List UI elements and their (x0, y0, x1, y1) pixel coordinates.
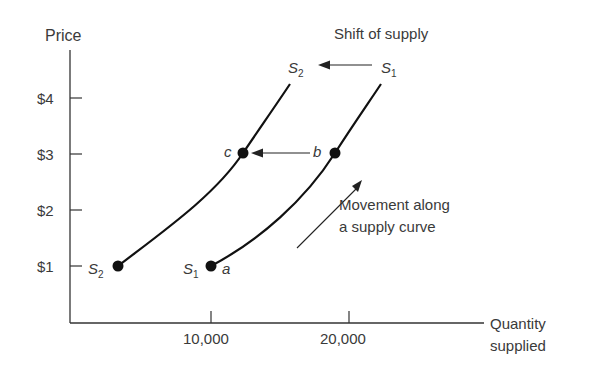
shift-of-supply-label: Shift of supply (334, 26, 428, 41)
point-c-label: c (224, 144, 232, 159)
y-axis-title: Price (45, 28, 81, 44)
arrow-left-icon (251, 149, 263, 158)
x-axis-title-line1: Quantity (490, 316, 546, 331)
supply-curve-s1 (211, 84, 381, 266)
y-tick-label: $1 (37, 259, 54, 274)
movement-label-line1: Movement along (339, 197, 450, 212)
point-s2-end (113, 261, 124, 272)
supply-curve-s2 (118, 84, 290, 266)
point-b-label: b (313, 144, 321, 159)
s2-bottom-label: S2 (88, 261, 104, 280)
arrow-left-icon (318, 61, 330, 70)
s1-bottom-label: S1 (183, 261, 199, 280)
point-a (206, 261, 217, 272)
point-b (330, 148, 341, 159)
x-axis-title-line2: supplied (490, 338, 546, 353)
s2-top-label: S2 (288, 60, 304, 79)
s1-top-label: S1 (381, 60, 397, 79)
y-tick-label: $3 (37, 147, 54, 162)
y-tick-label: $2 (37, 203, 54, 218)
arrow-up-right-icon (352, 180, 362, 192)
x-tick-label: 10,000 (183, 331, 229, 346)
point-c (238, 148, 249, 159)
y-tick-label: $4 (37, 91, 54, 106)
x-tick-label: 20,000 (320, 331, 366, 346)
point-a-label: a (222, 261, 230, 276)
movement-label-line2: a supply curve (339, 219, 436, 234)
